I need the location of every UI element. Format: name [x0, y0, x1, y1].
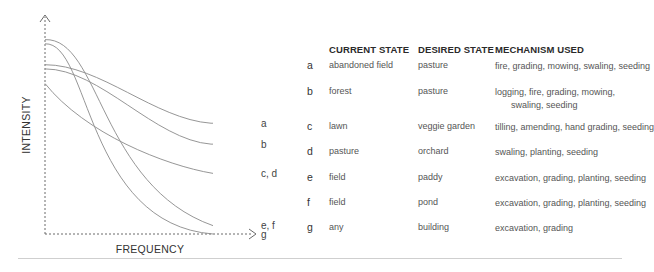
current-state: any — [329, 222, 344, 232]
mechanism: swaling, planting, seeding — [495, 146, 598, 159]
table-row: g any building excavation, grading — [307, 222, 637, 246]
curve-b — [45, 69, 213, 144]
row-key: c — [307, 120, 312, 132]
header-desired-state: DESIRED STATE — [418, 44, 494, 55]
current-state: pasture — [329, 146, 359, 156]
x-axis-title: FREQUENCY — [116, 243, 185, 255]
table-row: f field pond excavation, grading, planti… — [307, 197, 637, 221]
row-key: d — [307, 145, 313, 157]
table-row: a abandoned field pasture fire, grading,… — [307, 60, 637, 84]
mechanism-line-1: logging, fire, grading, mowing, — [495, 87, 615, 97]
row-key: a — [307, 59, 313, 71]
mechanism: tilling, amending, hand grading, seeding — [495, 121, 654, 134]
mechanism: logging, fire, grading, mowing, swaling,… — [495, 86, 615, 112]
current-state: field — [329, 197, 346, 207]
row-key: g — [307, 221, 313, 233]
mechanism: excavation, grading, planting, seeding — [495, 197, 646, 210]
current-state: field — [329, 172, 346, 182]
desired-state: pasture — [418, 60, 448, 70]
table-row: b forest pasture logging, fire, grading,… — [307, 86, 637, 110]
curve-label-g: g — [261, 229, 267, 240]
desired-state: orchard — [418, 146, 449, 156]
table-row: c lawn veggie garden tilling, amending, … — [307, 121, 637, 145]
curve-labels: abc, de, fg — [261, 118, 277, 240]
curve-label-cd: c, d — [261, 168, 277, 179]
desired-state: paddy — [418, 172, 443, 182]
mechanism: fire, grading, mowing, swaling, seeding — [495, 60, 650, 73]
current-state: lawn — [329, 121, 348, 131]
curves — [45, 40, 213, 234]
table-row: d pasture orchard swaling, planting, see… — [307, 146, 637, 170]
desired-state: pond — [418, 197, 438, 207]
mechanism: excavation, grading — [495, 222, 573, 235]
bottom-divider — [18, 258, 622, 259]
curve-label-a: a — [261, 118, 267, 129]
mechanism-line-2: swaling, seeding — [495, 99, 615, 112]
desired-state: veggie garden — [418, 121, 475, 131]
curve-cd — [45, 84, 213, 174]
row-key: b — [307, 85, 313, 97]
desired-state: pasture — [418, 86, 448, 96]
current-state: forest — [329, 86, 352, 96]
header-current-state: CURRENT STATE — [329, 44, 409, 55]
table-row: e field paddy excavation, grading, plant… — [307, 172, 637, 196]
y-axis-title: INTENSITY — [20, 96, 32, 154]
intensity-frequency-chart: abc, de, fg FREQUENCY INTENSITY — [0, 0, 300, 272]
curve-label-b: b — [261, 139, 267, 150]
row-key: f — [307, 196, 310, 208]
desired-state: building — [418, 222, 449, 232]
current-state: abandoned field — [329, 60, 393, 70]
header-mechanism-used: MECHANISM USED — [495, 44, 584, 55]
row-key: e — [307, 171, 313, 183]
mechanism: excavation, grading, planting, seeding — [495, 172, 646, 185]
